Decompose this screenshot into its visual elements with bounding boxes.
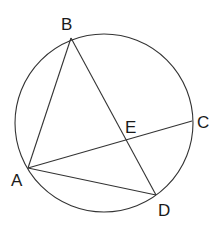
label-B: B (61, 15, 72, 34)
label-D: D (158, 201, 170, 220)
segment-BD (71, 38, 156, 195)
label-A: A (11, 171, 23, 190)
label-C: C (197, 113, 209, 132)
circle (15, 34, 193, 212)
geometry-diagram: A B C D E (0, 0, 218, 227)
segment-AC (28, 121, 192, 168)
segment-AB (28, 38, 71, 168)
label-E: E (125, 118, 136, 137)
